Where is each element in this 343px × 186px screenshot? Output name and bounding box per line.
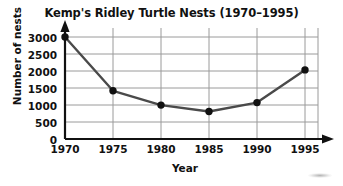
data-point-1990 <box>253 99 260 106</box>
plot-area <box>0 0 343 186</box>
data-point-1970 <box>61 33 68 40</box>
data-line-number-of-nests <box>65 37 305 112</box>
data-point-1975 <box>109 87 116 94</box>
data-point-1985 <box>205 108 212 115</box>
x-axis-title: Year <box>60 162 310 174</box>
chart-figure: Kemp's Ridley Turtle Nests (1970–1995) N… <box>0 0 343 186</box>
x-axis-line <box>65 134 334 143</box>
data-point-1980 <box>157 101 164 108</box>
scan-artifact-smudge <box>308 173 332 178</box>
data-point-1995 <box>301 66 308 73</box>
